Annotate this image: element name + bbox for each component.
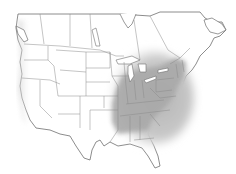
species-range (106, 50, 194, 146)
range-map (0, 0, 236, 174)
north-america-map (0, 0, 236, 174)
